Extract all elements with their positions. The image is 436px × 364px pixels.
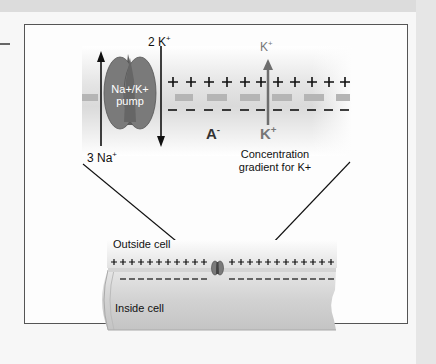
na-out-label: 3 Na+ <box>87 150 117 165</box>
k-out-label: 2 K+ <box>148 34 171 49</box>
outside-cell-label: Outside cell <box>113 238 170 250</box>
anion-label: A- <box>206 124 220 142</box>
pump-label-line1: Na+/K+ <box>110 83 150 95</box>
small-pump-icon <box>212 261 224 275</box>
axon-panel <box>102 240 337 330</box>
k-inside-label: K+ <box>260 124 277 142</box>
gradient-label: Concentration gradient for K+ <box>230 148 320 174</box>
diagram-graphics <box>0 0 436 364</box>
gradient-label-line2: gradient for K+ <box>230 161 320 174</box>
pump-label-line2: pump <box>110 95 150 107</box>
gradient-label-line1: Concentration <box>230 148 320 161</box>
pump-label: Na+/K+ pump <box>110 83 150 107</box>
k-outside-label: K+ <box>260 39 273 54</box>
inside-cell-label: Inside cell <box>115 302 164 314</box>
